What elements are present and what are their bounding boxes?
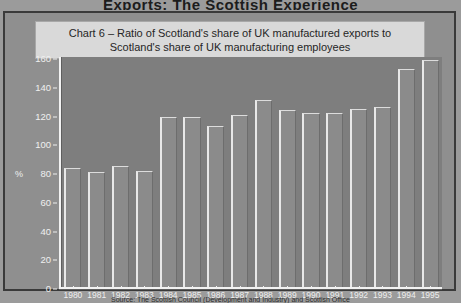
y-tick-mark [53, 59, 57, 60]
x-tick-mark [335, 286, 336, 289]
bar-slot [347, 57, 371, 287]
x-tick-mark [311, 286, 312, 289]
x-tick-mark [382, 286, 383, 289]
bar[interactable] [326, 113, 343, 287]
x-tick-mark [216, 286, 217, 289]
y-axis-unit-label: % [15, 169, 23, 179]
y-tick-mark [53, 174, 57, 175]
bar-slot [371, 57, 395, 287]
bar-slot [85, 57, 109, 287]
bar-slot [299, 57, 323, 287]
chart-title-line-1: Chart 6 – Ratio of Scotland's share of U… [69, 27, 392, 39]
y-axis-labels: 020406080100120140160% [5, 57, 59, 289]
bar-slot [156, 57, 180, 287]
bar-slot [204, 57, 228, 287]
bar[interactable] [279, 110, 296, 287]
y-tick-mark [53, 116, 57, 117]
figure-page: Exports: The Scottish Experience Chart 6… [0, 0, 461, 303]
x-tick-mark [430, 286, 431, 289]
x-tick-mark [121, 286, 122, 289]
bar-slot [418, 57, 442, 287]
bar-slot [109, 57, 133, 287]
y-tick-label: 100 [7, 141, 51, 151]
bar-slot [252, 57, 276, 287]
y-tick-mark [53, 87, 57, 88]
bar-slot [180, 57, 204, 287]
x-tick-mark [192, 286, 193, 289]
plot-area [59, 57, 442, 289]
bar[interactable] [422, 60, 439, 287]
y-tick-mark [53, 260, 57, 261]
source-note-partial: Source: The Scottish Council (Developmen… [0, 294, 461, 303]
x-tick-mark [406, 286, 407, 289]
x-tick-mark [144, 286, 145, 289]
y-tick-label: 120 [7, 112, 51, 122]
y-tick-label: 160 [7, 54, 51, 64]
bar-slot [132, 57, 156, 287]
bar[interactable] [64, 168, 81, 287]
bar-slot [323, 57, 347, 287]
x-tick-mark [73, 286, 74, 289]
chart-title-line-2: Scotland's share of UK manufacturing emp… [110, 41, 351, 53]
bar[interactable] [374, 107, 391, 287]
bar[interactable] [398, 69, 415, 288]
chart-figure: Chart 6 – Ratio of Scotland's share of U… [3, 11, 456, 291]
x-axis-line [59, 287, 442, 289]
bar[interactable] [88, 172, 105, 287]
y-tick-label: 60 [7, 198, 51, 208]
x-tick-mark [97, 286, 98, 289]
bar[interactable] [160, 117, 177, 287]
bar[interactable] [112, 166, 129, 287]
page-heading-partial: Exports: The Scottish Experience [0, 0, 461, 10]
y-tick-label: 80 [7, 169, 51, 179]
y-tick-mark [53, 145, 57, 146]
chart-title-plaque: Chart 6 – Ratio of Scotland's share of U… [35, 21, 425, 59]
bar[interactable] [302, 113, 319, 287]
y-tick-mark [53, 231, 57, 232]
bar[interactable] [183, 117, 200, 287]
y-tick-mark [53, 202, 57, 203]
y-tick-label: 40 [7, 227, 51, 237]
y-tick-label: 20 [7, 256, 51, 266]
x-tick-mark [359, 286, 360, 289]
bar[interactable] [207, 126, 224, 287]
x-tick-mark [240, 286, 241, 289]
x-tick-mark [263, 286, 264, 289]
plot-background [59, 57, 442, 289]
bar-slot [61, 57, 85, 287]
x-tick-mark [168, 286, 169, 289]
bar-series [61, 57, 442, 287]
y-tick-label: 0 [7, 284, 51, 294]
bar-slot [275, 57, 299, 287]
bar[interactable] [350, 109, 367, 287]
bar[interactable] [231, 115, 248, 288]
bar-slot [228, 57, 252, 287]
bar[interactable] [136, 171, 153, 287]
y-tick-mark [53, 289, 57, 290]
bar[interactable] [255, 100, 272, 287]
chart-title: Chart 6 – Ratio of Scotland's share of U… [63, 26, 398, 54]
y-tick-label: 140 [7, 83, 51, 93]
x-tick-mark [287, 286, 288, 289]
bar-slot [394, 57, 418, 287]
